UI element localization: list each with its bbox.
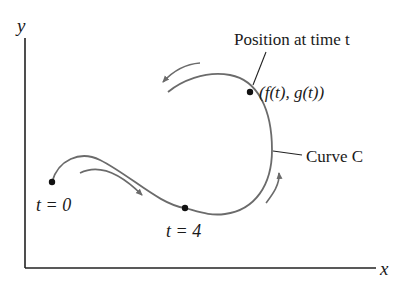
y-axis-label: y xyxy=(17,16,25,35)
parametric-curve-diagram: y x Position at time t (f(t), g(t)) Curv… xyxy=(0,0,404,287)
t4-label: t = 4 xyxy=(166,222,201,240)
x-axis-label: x xyxy=(380,259,388,278)
curve-name-label: Curve C xyxy=(306,148,363,165)
curve-c xyxy=(52,74,272,215)
position-caption: Position at time t xyxy=(234,31,350,48)
point-t0 xyxy=(49,179,55,185)
point-position xyxy=(247,89,253,95)
point-t4 xyxy=(182,205,188,211)
curve-leader-line xyxy=(273,151,302,155)
position-leader-line xyxy=(253,52,266,85)
direction-arrow-right xyxy=(80,169,142,195)
t0-label: t = 0 xyxy=(36,196,71,214)
direction-arrow-left xyxy=(163,63,200,82)
position-point-label: (f(t), g(t)) xyxy=(259,84,324,101)
